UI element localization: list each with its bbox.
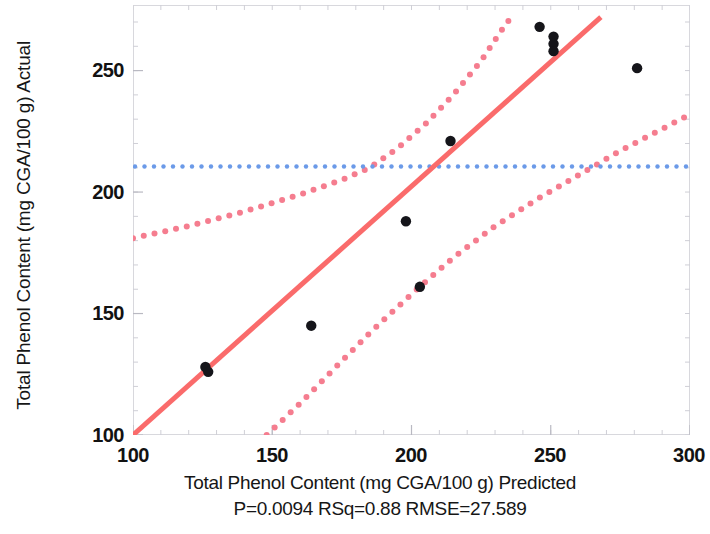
mean-line-dot [655, 164, 659, 168]
data-point [445, 136, 455, 146]
confidence-dot-upper [290, 194, 296, 200]
y-tick-200: 200 [64, 181, 124, 204]
x-tick-100: 100 [98, 444, 168, 467]
data-points [200, 22, 642, 377]
mean-line-dot [579, 164, 583, 168]
mean-line-dot [399, 164, 403, 168]
mean-line-dot [161, 164, 165, 168]
confidence-dot-lower [296, 402, 302, 408]
confidence-dot-lower [681, 114, 687, 120]
x-tick-200: 200 [376, 444, 446, 467]
confidence-dot-upper [162, 228, 168, 234]
mean-line-dot [342, 164, 346, 168]
mean-line-dot [351, 164, 355, 168]
mean-line-dot [665, 164, 669, 168]
x-axis-title: Total Phenol Content (mg CGA/100 g) Pred… [60, 472, 700, 494]
confidence-dot-lower [264, 432, 270, 435]
confidence-dot-upper [151, 231, 157, 237]
confidence-dot-lower [652, 130, 658, 136]
y-tick-250: 250 [64, 59, 124, 82]
mean-line-dot [541, 164, 545, 168]
confidence-dot-upper [474, 63, 480, 69]
confidence-dot-lower [556, 184, 562, 190]
confidence-dot-lower [406, 294, 412, 300]
confidence-dot-upper [141, 233, 147, 239]
mean-line-dot [171, 164, 175, 168]
confidence-dot-lower [439, 265, 445, 271]
confidence-dot-lower [334, 363, 340, 369]
confidence-dot-lower [272, 424, 278, 430]
confidence-dot-lower [671, 120, 677, 126]
confidence-dot-upper [453, 89, 459, 95]
plot-area [133, 5, 690, 435]
mean-line-dot [370, 164, 374, 168]
mean-line-dot [294, 164, 298, 168]
confidence-dot-upper [342, 176, 348, 182]
confidence-dot-upper [184, 224, 190, 230]
confidence-dot-upper [481, 54, 487, 60]
mean-line-dot [237, 164, 241, 168]
confidence-dot-upper [505, 18, 511, 24]
mean-line-dot [674, 164, 678, 168]
confidence-dot-upper [380, 155, 386, 161]
confidence-dot-upper [248, 207, 254, 213]
mean-line-dot [361, 164, 365, 168]
mean-line-dot [380, 164, 384, 168]
confidence-dot-lower [327, 370, 333, 376]
confidence-dot-lower [447, 258, 453, 264]
mean-line-dot [152, 164, 156, 168]
mean-line-dot [503, 164, 507, 168]
confidence-dot-upper [216, 215, 222, 221]
mean-line-dot [313, 164, 317, 168]
data-point [632, 63, 642, 73]
lower-confidence-curve [264, 114, 687, 435]
mean-line-dot [475, 164, 479, 168]
mean-line-dot [484, 164, 488, 168]
mean-line-dot [285, 164, 289, 168]
confidence-dot-lower [365, 331, 371, 337]
axis-major-ticks [133, 71, 690, 435]
confidence-dot-upper [237, 210, 243, 216]
mean-line-dot [304, 164, 308, 168]
confidence-dot-lower [662, 125, 668, 131]
mean-line-dot [598, 164, 602, 168]
confidence-dot-lower [464, 244, 470, 250]
x-tick-150: 150 [237, 444, 307, 467]
confidence-dot-upper [194, 221, 200, 227]
confidence-dot-lower [358, 339, 364, 345]
data-point [401, 216, 411, 226]
upper-confidence-curve [133, 18, 511, 241]
mean-line-dot [456, 164, 460, 168]
mean-line-dot [266, 164, 270, 168]
confidence-dot-lower [350, 347, 356, 353]
confidence-dot-lower [455, 251, 461, 257]
confidence-dot-lower [491, 224, 497, 230]
mean-line-dot [389, 164, 393, 168]
confidence-dot-upper [423, 121, 429, 127]
confidence-dot-lower [319, 378, 325, 384]
data-point [534, 22, 544, 32]
confidence-dot-lower [632, 140, 638, 146]
mean-line-dot [532, 164, 536, 168]
confidence-dot-upper [389, 149, 395, 155]
y-tick-150: 150 [64, 302, 124, 325]
data-point [203, 367, 213, 377]
data-point [415, 282, 425, 292]
confidence-dot-lower [389, 309, 395, 315]
mean-line-dot [627, 164, 631, 168]
mean-line-dot [570, 164, 574, 168]
mean-line-dot [494, 164, 498, 168]
regression-plot-figure: Total Phenol Content (mg CGA/100 g) Actu… [0, 0, 710, 534]
mean-line-dot [589, 164, 593, 168]
confidence-dot-upper [406, 135, 412, 141]
mean-line-dot [190, 164, 194, 168]
confidence-dot-lower [280, 417, 286, 423]
confidence-dot-upper [173, 226, 179, 232]
confidence-dot-upper [430, 113, 436, 119]
confidence-dot-lower [613, 150, 619, 156]
confidence-dot-lower [642, 135, 648, 141]
confidence-dot-upper [398, 142, 404, 148]
stats-caption: P=0.0094 RSq=0.88 RMSE=27.589 [60, 498, 700, 520]
confidence-dot-lower [623, 145, 629, 151]
mean-line-dot [275, 164, 279, 168]
